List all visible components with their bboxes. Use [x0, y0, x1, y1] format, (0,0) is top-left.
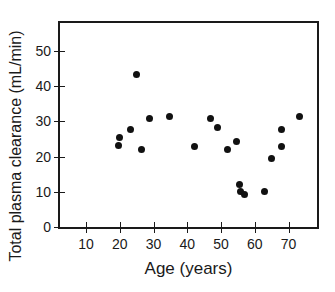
x-axis-tick-inner [221, 222, 222, 227]
y-axis-tick-inner [60, 192, 65, 193]
y-axis-tick-label: 10 [35, 184, 51, 200]
data-point [207, 115, 214, 122]
data-point [268, 155, 275, 162]
y-axis-tick-label: 50 [35, 43, 51, 59]
x-axis-tick-label: 10 [78, 236, 94, 252]
x-axis-tick-inner [289, 222, 290, 227]
data-point [278, 126, 285, 133]
x-axis-tick-inner [120, 222, 121, 227]
y-axis-tick-inner [60, 227, 65, 228]
data-point [138, 146, 145, 153]
x-axis-tick [221, 227, 222, 233]
y-axis-tick-inner [60, 121, 65, 122]
x-axis-tick [255, 227, 256, 233]
data-point [233, 138, 240, 145]
plot-area [60, 23, 317, 227]
y-axis-tick-inner [60, 86, 65, 87]
x-axis-tick [154, 227, 155, 233]
scatter-plot-figure: 0102030405010203040506070 Age (years) To… [0, 0, 335, 292]
x-axis-tick [289, 227, 290, 233]
y-axis-tick-label: 0 [43, 219, 51, 235]
data-point [127, 126, 134, 133]
data-point [116, 134, 123, 141]
data-point [133, 71, 140, 78]
x-axis-tick [86, 227, 87, 233]
x-axis-tick-inner [154, 222, 155, 227]
x-axis-tick-label: 20 [112, 236, 128, 252]
data-point [191, 143, 198, 150]
data-point [236, 181, 243, 188]
y-axis-tick-inner [60, 157, 65, 158]
data-point [261, 188, 268, 195]
data-point [296, 113, 303, 120]
data-point [214, 124, 221, 131]
y-axis-title: Total plasma clearance (mL/min) [3, 0, 29, 292]
x-axis-tick-label: 40 [180, 236, 196, 252]
data-point [278, 143, 285, 150]
x-axis-tick-inner [86, 222, 87, 227]
x-axis-tick [187, 227, 188, 233]
x-axis-tick-inner [255, 222, 256, 227]
x-axis-tick-label: 30 [146, 236, 162, 252]
y-axis-tick-label: 20 [35, 149, 51, 165]
y-axis-tick-label: 30 [35, 113, 51, 129]
x-axis-tick [120, 227, 121, 233]
x-axis-tick-label: 70 [281, 236, 297, 252]
data-point [224, 146, 231, 153]
y-axis-tick-label: 40 [35, 78, 51, 94]
x-axis-tick-label: 60 [247, 236, 263, 252]
data-point [115, 142, 122, 149]
data-point [146, 115, 153, 122]
x-axis-tick-label: 50 [213, 236, 229, 252]
y-axis-tick-inner [60, 51, 65, 52]
data-point [241, 191, 248, 198]
plot-frame: 0102030405010203040506070 [58, 21, 319, 229]
x-axis-tick-inner [187, 222, 188, 227]
x-axis-title: Age (years) [58, 259, 319, 279]
data-point [166, 113, 173, 120]
